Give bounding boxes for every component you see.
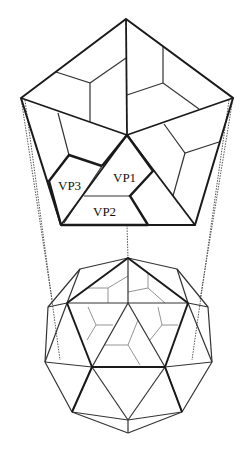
label-vp1: VP1 [113,170,136,185]
diagram-svg: VP1 VP2 VP3 [0,0,252,451]
projection-lines [21,98,233,360]
label-vp3: VP3 [58,178,81,193]
label-vp2: VP2 [93,204,116,219]
diagram-canvas: VP1 VP2 VP3 [0,0,252,451]
polyhedron [45,258,212,433]
pentagon-face [21,19,233,225]
pentagon-subdivisions [49,47,219,223]
